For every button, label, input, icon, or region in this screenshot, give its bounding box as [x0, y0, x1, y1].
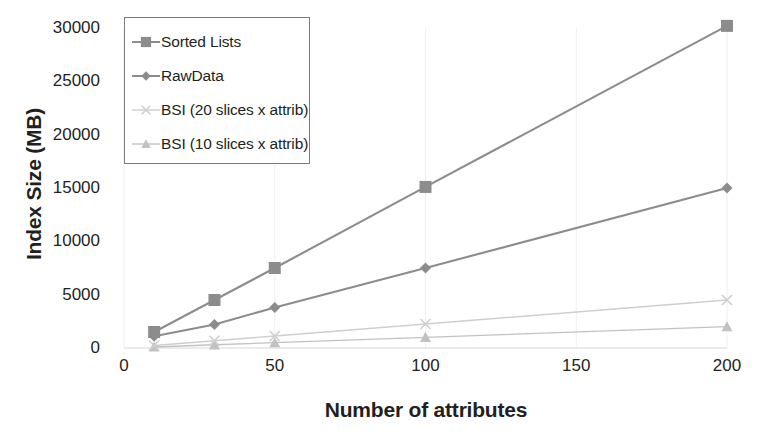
data-marker-diamond — [141, 71, 150, 80]
data-marker-square — [420, 181, 432, 193]
legend-item[interactable]: BSI (10 slices x attrib) — [125, 127, 309, 161]
legend-square-icon — [131, 35, 161, 49]
data-marker-square — [721, 20, 733, 32]
series-line — [154, 327, 727, 347]
series-line — [154, 188, 727, 336]
x-axis-title: Number of attributes — [124, 398, 728, 422]
legend-x-icon — [131, 103, 161, 117]
legend: Sorted ListsRawDataBSI (20 slices x attr… — [124, 17, 310, 164]
data-marker-square — [269, 262, 281, 274]
legend-item[interactable]: BSI (20 slices x attrib) — [125, 93, 309, 127]
chart-container: Index Size (MB) 050001000015000200002500… — [0, 0, 776, 445]
legend-item-label: RawData — [161, 67, 224, 85]
legend-item-label: Sorted Lists — [161, 33, 241, 51]
legend-item[interactable]: Sorted Lists — [125, 25, 309, 59]
legend-item-label: BSI (10 slices x attrib) — [161, 135, 308, 153]
data-marker-square — [148, 326, 160, 338]
data-marker-diamond — [420, 263, 431, 274]
legend-item-label: BSI (20 slices x attrib) — [161, 101, 308, 119]
legend-triangle-icon — [131, 137, 161, 151]
data-marker-diamond — [269, 302, 280, 313]
series-line — [154, 300, 727, 346]
plot-area — [0, 0, 776, 445]
legend-diamond-icon — [131, 69, 161, 83]
data-marker-square — [141, 37, 151, 47]
data-marker-diamond — [722, 183, 733, 194]
legend-item[interactable]: RawData — [125, 59, 309, 93]
data-marker-diamond — [209, 319, 220, 330]
data-marker-square — [208, 294, 220, 306]
